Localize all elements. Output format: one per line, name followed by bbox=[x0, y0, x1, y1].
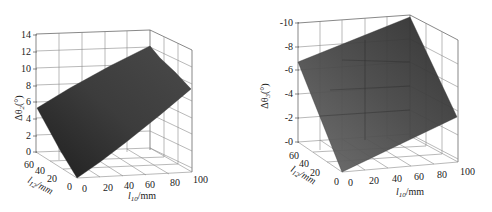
y-tick: 60 bbox=[24, 159, 34, 170]
z-tick: 14 bbox=[21, 29, 31, 40]
x-tick: 100 bbox=[193, 174, 208, 185]
z-tick: -10 bbox=[280, 17, 293, 28]
left-floor-grid bbox=[36, 148, 192, 178]
z-tick: 0 bbox=[26, 146, 31, 157]
x-tick: 80 bbox=[170, 177, 180, 188]
z-tick: 8 bbox=[26, 80, 31, 91]
left-z-axis: 14 12 10 8 6 4 2 0 Δθ2(°) bbox=[13, 29, 37, 157]
figure-canvas: 14 12 10 8 6 4 2 0 Δθ2(°) 60 40 20 0 l12… bbox=[0, 0, 492, 212]
z-tick: 10 bbox=[21, 63, 31, 74]
right-x-axis: 0 20 40 60 80 100 l10/mm bbox=[348, 166, 475, 199]
z-tick: -0 bbox=[285, 136, 293, 147]
y-tick: 0 bbox=[67, 181, 72, 192]
y-tick: 0 bbox=[334, 176, 339, 187]
right-z-axis: -10 -8 -6 -4 -2 -0 Δθ3(°) bbox=[259, 17, 299, 147]
z-axis-label: Δθ3(°) bbox=[259, 83, 272, 108]
right-surface-plot: -10 -8 -6 -4 -2 -0 Δθ3(°) 60 40 20 0 l12… bbox=[259, 15, 475, 199]
z-tick: 6 bbox=[26, 96, 31, 107]
z-tick: -6 bbox=[285, 64, 293, 75]
z-tick: 4 bbox=[26, 113, 31, 124]
right-y-axis: 60 40 20 0 l12/mm bbox=[288, 150, 339, 188]
left-surface-plot: 14 12 10 8 6 4 2 0 Δθ2(°) 60 40 20 0 l12… bbox=[13, 29, 208, 203]
x-tick: 80 bbox=[437, 169, 447, 180]
x-tick: 0 bbox=[348, 177, 353, 188]
x-tick: 40 bbox=[392, 173, 402, 184]
x-axis-label: l10/mm bbox=[396, 186, 424, 199]
z-axis-label: Δθ2(°) bbox=[13, 95, 26, 120]
x-tick: 0 bbox=[82, 183, 87, 194]
x-tick: 20 bbox=[103, 182, 113, 193]
y-tick: 60 bbox=[289, 150, 299, 161]
x-tick: 100 bbox=[460, 166, 475, 177]
x-tick: 60 bbox=[145, 179, 155, 190]
z-tick: -2 bbox=[285, 112, 293, 123]
z-tick: -8 bbox=[285, 41, 293, 52]
x-tick: 20 bbox=[369, 175, 379, 186]
z-tick: 2 bbox=[26, 130, 31, 141]
left-x-axis: 0 20 40 60 80 100 l10/mm bbox=[82, 174, 208, 203]
x-tick: 60 bbox=[414, 171, 424, 182]
z-tick: -4 bbox=[285, 88, 293, 99]
z-tick: 12 bbox=[21, 46, 31, 57]
y-tick: 40 bbox=[299, 158, 309, 169]
left-y-axis: 60 40 20 0 l12/mm bbox=[24, 159, 72, 198]
y-tick: 40 bbox=[35, 165, 45, 176]
x-axis-label: l10/mm bbox=[128, 190, 156, 203]
